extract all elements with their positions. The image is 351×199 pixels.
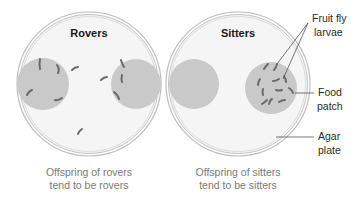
food-patch <box>111 59 161 109</box>
label-food-patch-line2: patch <box>317 100 343 112</box>
caption-sitters-line1: Offspring of sitters <box>195 166 280 178</box>
plate-title-sitters: Sitters <box>221 27 255 39</box>
label-fruit-fly-larvae-line1: Fruit fly <box>312 12 347 24</box>
food-patch <box>17 58 69 110</box>
plate-title-rovers: Rovers <box>70 27 107 39</box>
label-agar-plate-line2: plate <box>318 144 341 156</box>
caption-sitters-line2: tend to be sitters <box>199 179 277 191</box>
caption-rovers-line1: Offspring of rovers <box>46 166 132 178</box>
diagram-canvas: Rovers Sitters Fruit fly larvae <box>0 0 351 199</box>
label-food-patch-line1: Food <box>318 86 342 98</box>
caption-rovers-line2: tend to be rovers <box>50 179 129 191</box>
label-agar-plate-line1: Agar <box>318 130 341 142</box>
rovers-plate: Rovers <box>17 12 161 156</box>
label-fruit-fly-larvae-line2: larvae <box>314 26 343 38</box>
food-patch <box>169 59 219 109</box>
sitters-plate: Sitters <box>166 12 310 156</box>
